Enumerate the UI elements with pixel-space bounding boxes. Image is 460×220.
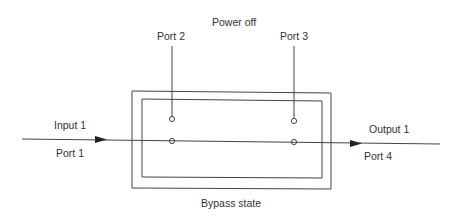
port3-terminal: [291, 118, 296, 123]
output-label: Output 1: [369, 123, 409, 135]
input-arrow-icon: [95, 136, 107, 143]
inner-switch-box: [142, 99, 322, 178]
outer-housing-box: [132, 91, 331, 189]
output-arrow-icon: [350, 140, 362, 147]
port3-label: Port 3: [280, 30, 308, 42]
diagram-title: Power off: [212, 16, 256, 28]
port2-terminal: [169, 116, 174, 121]
port2-label: Port 2: [157, 30, 185, 42]
diagram-caption: Bypass state: [201, 197, 261, 209]
main-signal-line: [22, 139, 440, 144]
bypass-diagram: Power off Port 2 Port 3 Input 1 Port 1 O…: [0, 0, 460, 220]
port4-label: Port 4: [364, 150, 392, 162]
input-label: Input 1: [54, 119, 86, 131]
port1-label: Port 1: [56, 147, 84, 159]
